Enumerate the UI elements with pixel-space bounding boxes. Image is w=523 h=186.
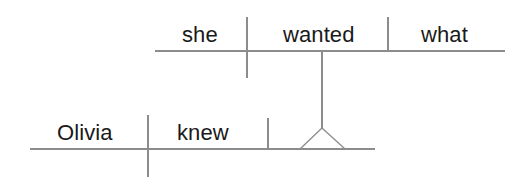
- tripod-right-leg-icon: [322, 128, 345, 149]
- subordinate-subject-label: she: [182, 24, 218, 46]
- tripod-left-leg-icon: [300, 128, 322, 149]
- main-subject-label: Olivia: [57, 122, 113, 144]
- main-verb-label: knew: [177, 122, 229, 144]
- subordinate-object-label: what: [421, 24, 468, 46]
- sentence-diagram: she wanted what Olivia knew: [0, 0, 523, 186]
- subordinate-verb-label: wanted: [283, 24, 355, 46]
